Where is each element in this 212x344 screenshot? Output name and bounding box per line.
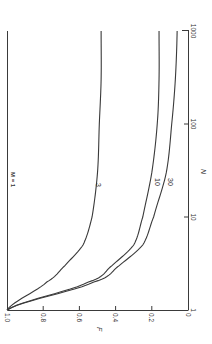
n-tick-label: 1 <box>190 308 197 312</box>
n-axis-ticks <box>184 124 189 217</box>
f-tick-labels: 1.00.80.60.40.20 <box>4 313 192 322</box>
f-axis-ticks <box>43 306 152 310</box>
n-tick-labels: 1101001000 <box>190 24 197 312</box>
f-tick-label: 1.0 <box>4 313 11 322</box>
n-tick-label: 10 <box>190 213 197 221</box>
curve-label-3: 3 <box>95 183 102 187</box>
curve-label-30: 30 <box>167 178 174 186</box>
chart: 3 10 30 M = 1 N F 1.00.80.60.40.20 11010… <box>0 0 212 344</box>
curve-label-10: 10 <box>154 178 161 186</box>
f-tick-label: 0.4 <box>112 313 119 322</box>
curves <box>7 31 177 310</box>
x-axis-label: N <box>200 169 207 175</box>
curve-3 <box>7 31 101 310</box>
f-tick-label: 0.8 <box>40 313 47 322</box>
n-tick-label: 100 <box>190 119 197 130</box>
curve-10 <box>7 31 159 310</box>
m-annotation: M = 1 <box>10 172 16 188</box>
y-axis-label: F <box>96 327 103 332</box>
f-tick-label: 0 <box>185 313 192 317</box>
n-tick-label: 1000 <box>190 24 197 39</box>
f-tick-label: 0.2 <box>148 313 155 322</box>
f-tick-label: 0.6 <box>76 313 83 322</box>
